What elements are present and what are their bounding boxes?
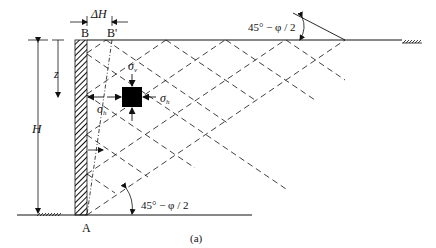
point-b-prime-label: B' — [107, 27, 117, 39]
depth-z-label: z — [54, 68, 59, 80]
figure-caption: (a) — [190, 233, 202, 244]
delta-h-label: ΔH — [91, 8, 107, 20]
soil-element — [122, 87, 142, 107]
sigma-h-right-label: σh — [160, 92, 169, 106]
ground-hatch-icon-top — [402, 40, 422, 43]
sigma-v-label: σv — [128, 60, 137, 74]
angle-arc-top — [300, 17, 304, 40]
point-a-label: A — [82, 222, 91, 234]
angle-reference-line-top — [293, 13, 345, 40]
angle-top-label: 45° − φ / 2 — [248, 22, 296, 33]
sigma-h-left-label: σh — [97, 103, 106, 117]
angle-arc-bottom — [126, 188, 132, 214]
slip-line-network — [87, 40, 345, 215]
retaining-wall-diagram — [0, 0, 436, 248]
point-b-label: B — [81, 27, 89, 39]
angle-bottom-label: 45° − φ / 2 — [141, 200, 189, 211]
retaining-wall — [75, 40, 87, 215]
height-h-label: H — [32, 122, 41, 135]
